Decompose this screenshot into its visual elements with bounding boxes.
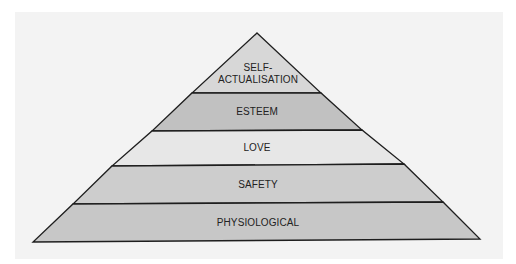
label-safety: SAFETY — [238, 179, 278, 191]
label-love: LOVE — [243, 142, 270, 154]
label-physiological: PHYSIOLOGICAL — [217, 217, 299, 229]
label-esteem: ESTEEM — [236, 106, 278, 118]
label-self-line2: ACTUALISATION — [218, 74, 298, 86]
label-self-line1: SELF- — [218, 62, 298, 74]
label-self-actualisation: SELF- ACTUALISATION — [218, 62, 298, 86]
